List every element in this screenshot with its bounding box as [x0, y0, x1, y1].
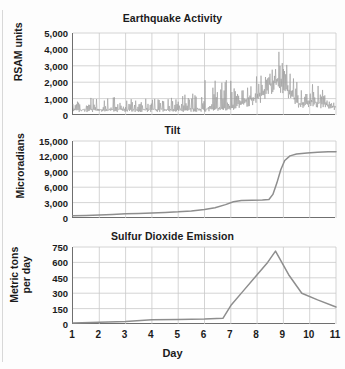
- y-tick-tilt-1: 3,000: [8, 197, 68, 208]
- y-tick-earthquake-5: 5,000: [8, 28, 68, 39]
- y-tick-so2-5: 750: [8, 242, 68, 253]
- x-tick-day-10: 10: [303, 329, 314, 340]
- y-tick-so2-0: 0: [8, 319, 68, 330]
- y-tick-tilt-3: 9,000: [8, 166, 68, 177]
- y-tick-tilt-4: 12,000: [8, 151, 68, 162]
- panel-sulfur-dioxide: Sulfur Dioxide Emission Metric tons per …: [0, 230, 345, 369]
- y-tick-tilt-0: 0: [8, 213, 68, 224]
- y-tick-so2-2: 300: [8, 288, 68, 299]
- chart-title-tilt: Tilt: [0, 124, 345, 136]
- x-tick-day-11: 11: [330, 329, 341, 340]
- x-tick-day-8: 8: [253, 329, 259, 340]
- y-tick-earthquake-2: 2,000: [8, 77, 68, 88]
- chart-title-so2: Sulfur Dioxide Emission: [0, 230, 345, 242]
- x-tick-day-2: 2: [96, 329, 102, 340]
- y-tick-earthquake-0: 0: [8, 110, 68, 121]
- x-tick-day-7: 7: [227, 329, 233, 340]
- panel-earthquake-activity: Earthquake Activity RSAM units 01,0002,0…: [0, 0, 345, 122]
- x-tick-day-3: 3: [122, 329, 128, 340]
- y-tick-so2-1: 150: [8, 303, 68, 314]
- y-tick-earthquake-3: 3,000: [8, 60, 68, 71]
- x-axis-label-day: Day: [0, 347, 345, 359]
- x-tick-day-1: 1: [69, 329, 75, 340]
- plot-area-tilt: [72, 141, 335, 218]
- y-tick-so2-4: 600: [8, 257, 68, 268]
- y-tick-tilt-2: 6,000: [8, 182, 68, 193]
- plot-area-so2: [72, 247, 335, 324]
- y-tick-earthquake-4: 4,000: [8, 44, 68, 55]
- x-tick-day-5: 5: [174, 329, 180, 340]
- panel-tilt: Tilt Microradians 03,0006,0009,00012,000…: [0, 122, 345, 230]
- y-tick-tilt-5: 15,000: [8, 136, 68, 147]
- y-tick-so2-3: 450: [8, 272, 68, 283]
- figure-container: Earthquake Activity RSAM units 01,0002,0…: [0, 0, 345, 369]
- plot-area-earthquake: [72, 33, 335, 115]
- y-tick-earthquake-1: 1,000: [8, 93, 68, 104]
- chart-title-earthquake: Earthquake Activity: [0, 12, 345, 24]
- x-tick-day-4: 4: [148, 329, 154, 340]
- x-tick-day-9: 9: [280, 329, 286, 340]
- x-tick-day-6: 6: [201, 329, 207, 340]
